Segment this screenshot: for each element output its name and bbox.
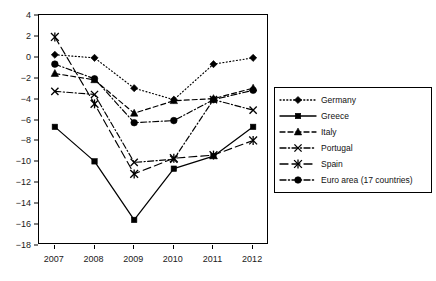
data-point-marker	[210, 96, 217, 103]
data-point-marker	[250, 54, 257, 61]
x-tick-label: 2009	[123, 254, 143, 264]
data-point-marker	[250, 107, 257, 114]
y-tick-label: −8	[21, 135, 31, 145]
legend-marker-icon	[295, 113, 300, 118]
x-tick-mark	[173, 245, 174, 249]
data-point-marker	[130, 169, 138, 178]
legend-item[interactable]: Spain	[279, 156, 428, 172]
y-tick-label: −6	[21, 115, 31, 125]
x-tick-mark	[94, 245, 95, 249]
legend-item[interactable]: Euro area (17 countries)	[279, 172, 428, 188]
legend-sample-circle-icon	[279, 173, 317, 187]
y-tick-label: 2	[26, 31, 31, 41]
chart-legend: GermanyGreeceItalyPortugalSpainEuro area…	[274, 87, 432, 193]
data-point-marker	[91, 99, 99, 108]
legend-marker-icon	[295, 177, 302, 184]
y-tick-label: 0	[26, 52, 31, 62]
legend-item-label: Spain	[321, 160, 343, 169]
data-point-marker	[250, 87, 257, 94]
x-tick-label: 2012	[242, 254, 262, 264]
series-line	[55, 91, 253, 162]
x-axis: 200720082009201020112012	[38, 245, 268, 275]
legend-sample-x-icon	[279, 141, 317, 155]
data-point-marker	[51, 70, 58, 77]
chart-figure: 420−2−4−6−8−10−12−14−16−18 2007200820092…	[0, 0, 436, 281]
legend-sample-triangle-icon	[279, 125, 317, 139]
y-tick-label: −16	[16, 219, 31, 229]
x-tick-mark	[252, 245, 253, 249]
legend-marker-icon	[294, 96, 301, 103]
y-tick-label: −18	[16, 240, 31, 250]
legend-item-label: Greece	[321, 112, 349, 121]
legend-sample-diamond-icon	[279, 93, 317, 107]
x-tick-mark	[54, 245, 55, 249]
x-tick-mark	[212, 245, 213, 249]
plot-area	[38, 14, 268, 244]
x-tick-label: 2011	[203, 254, 222, 264]
x-tick-label: 2010	[163, 254, 183, 264]
legend-item[interactable]: Greece	[279, 108, 428, 124]
x-tick-mark	[133, 245, 134, 249]
data-point-marker	[52, 124, 57, 129]
legend-item-label: Portugal	[321, 144, 353, 153]
data-point-marker	[51, 32, 59, 41]
data-point-marker	[131, 217, 136, 222]
y-axis: 420−2−4−6−8−10−12−14−16−18	[0, 14, 38, 246]
data-point-marker	[171, 166, 176, 171]
data-point-marker	[249, 136, 257, 145]
data-point-marker	[171, 117, 178, 124]
data-point-marker	[250, 124, 255, 129]
y-tick-label: −14	[16, 198, 31, 208]
x-tick-label: 2008	[84, 254, 104, 264]
legend-item-label: Euro area (17 countries)	[321, 176, 413, 185]
data-point-marker	[91, 54, 98, 61]
series-line	[55, 127, 253, 220]
y-tick-label: −2	[21, 73, 31, 83]
data-point-marker	[131, 119, 138, 126]
y-tick-label: 4	[26, 10, 31, 20]
x-tick-label: 2007	[44, 254, 64, 264]
legend-item[interactable]: Portugal	[279, 140, 428, 156]
legend-item[interactable]: Germany	[279, 92, 428, 108]
legend-sample-square-icon	[279, 109, 317, 123]
data-point-marker	[92, 159, 97, 164]
y-tick-label: −10	[16, 156, 31, 166]
legend-sample-asterisk-icon	[279, 157, 317, 171]
legend-item-label: Germany	[321, 96, 356, 105]
data-point-marker	[51, 51, 58, 58]
series-line	[55, 55, 253, 100]
chart-plot-svg	[39, 15, 269, 245]
data-point-marker	[91, 75, 98, 82]
y-tick-label: −12	[16, 177, 31, 187]
data-point-marker	[130, 109, 137, 116]
y-tick-label: −4	[21, 94, 31, 104]
legend-item[interactable]: Italy	[279, 124, 428, 140]
legend-item-label: Italy	[321, 128, 337, 137]
data-point-marker	[52, 61, 59, 68]
